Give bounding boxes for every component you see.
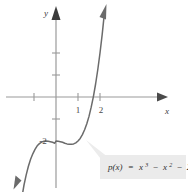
x-axis-arrowhead: [157, 93, 168, 102]
equation-lhs: p(x): [107, 162, 123, 172]
equation-equals: =: [128, 162, 134, 172]
equation-minus-1: −: [153, 162, 159, 172]
tick-label-x-1: 1: [76, 105, 81, 115]
cubic-curve: [17, 13, 104, 192]
tick-label-x-2: 2: [99, 105, 104, 115]
equation-minus-2: −: [176, 162, 182, 172]
graph-canvas: x y 1 2 -2 p(x) = x 3 − x 2 − 2: [0, 0, 188, 192]
equation-term1-base: x: [138, 162, 143, 172]
equation-constant: 2: [187, 162, 188, 172]
equation-term2-exponent: 2: [169, 162, 172, 168]
x-axis-label: x: [164, 106, 169, 116]
tick-label-y-minus2: -2: [39, 136, 47, 146]
equation-term2-base: x: [162, 162, 167, 172]
y-axis-arrowhead: [52, 6, 61, 20]
curve-arrowhead-up: [100, 4, 107, 20]
curve-arrowhead-down: [14, 176, 22, 190]
cubic-polynomial-figure: x y 1 2 -2 p(x) = x 3 − x 2 − 2: [0, 0, 188, 192]
y-axis-label: y: [43, 8, 48, 18]
equation-term1-exponent: 3: [144, 162, 148, 168]
